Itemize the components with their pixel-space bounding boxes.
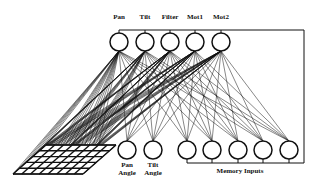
connection-line: [221, 51, 238, 141]
output-node: [212, 33, 230, 51]
output-node: [110, 33, 128, 51]
connection-line: [221, 51, 263, 141]
memory-node: [229, 141, 247, 159]
input-node: [118, 141, 136, 159]
output-node: [136, 33, 154, 51]
memory-node: [280, 141, 298, 159]
connection-line: [170, 51, 187, 141]
output-label-mot1: Mot1: [184, 13, 206, 21]
output-label-mot2: Mot2: [210, 13, 232, 21]
input-label-pan-line2: Angle: [115, 169, 139, 177]
output-label-tilt: Tilt: [135, 13, 155, 21]
output-label-filter: Filter: [158, 13, 182, 21]
input-label-tilt-line1: Tilt: [141, 161, 165, 169]
connection-line: [195, 51, 263, 141]
output-label-pan: Pan: [109, 13, 129, 21]
memory-inputs-label: Memory Inputs: [205, 167, 275, 175]
input-label-pan-angle: Pan Angle: [115, 161, 139, 177]
connection-line: [145, 51, 289, 141]
input-label-tilt-line2: Angle: [141, 169, 165, 177]
memory-node: [178, 141, 196, 159]
memory-node: [203, 141, 221, 159]
connection-line: [221, 51, 289, 141]
memory-node: [254, 141, 272, 159]
connection-line: [212, 51, 221, 141]
output-node: [186, 33, 204, 51]
input-label-tilt-angle: Tilt Angle: [141, 161, 165, 177]
input-label-pan-line1: Pan: [115, 161, 139, 169]
output-node: [161, 33, 179, 51]
input-node: [144, 141, 162, 159]
